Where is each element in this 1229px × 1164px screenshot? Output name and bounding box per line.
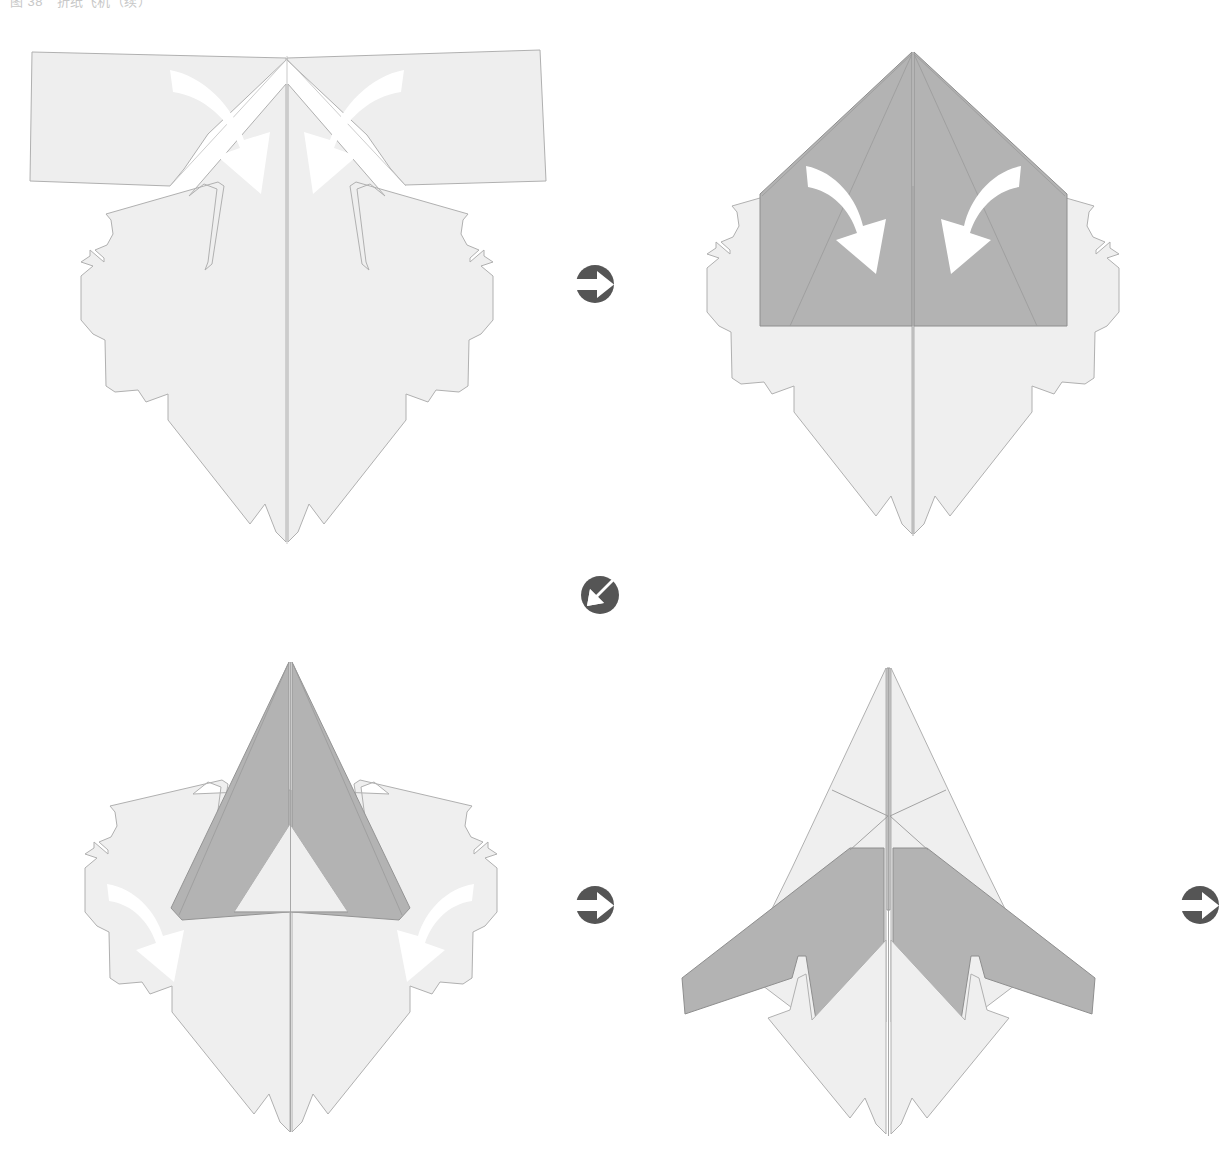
arrow-right-circle-icon[interactable] (573, 262, 617, 306)
connector-next-step-arrow-right-edge[interactable] (1178, 883, 1222, 927)
panel-step-1-figure (18, 34, 563, 554)
panel-step-3: Flaps folded up into narrow gray spire (18, 640, 563, 1140)
arrow-right-circle-icon[interactable] (1178, 883, 1222, 927)
connector-next-row-arrow[interactable] (578, 573, 622, 617)
arrow-right-circle-icon[interactable] (573, 883, 617, 927)
panel-step-4: Finished swept-wing paper airplane (660, 640, 1160, 1140)
figure-sheet: 图 38 折纸飞机（续） Flat sheet with upper corne… (0, 0, 1229, 1164)
panel-step-3-figure (18, 640, 563, 1140)
connector-next-step-arrow-right-bottom[interactable] (573, 883, 617, 927)
panel-step-1: Flat sheet with upper corners to be fold… (18, 34, 563, 554)
arrow-down-left-circle-icon[interactable] (578, 573, 622, 617)
panel-step-2: Upper corners folded to center forming g… (640, 26, 1185, 546)
panel-step-2-figure (640, 26, 1185, 546)
connector-next-step-arrow-right-top[interactable] (573, 262, 617, 306)
panel-step-4-figure (660, 640, 1160, 1140)
figure-caption: 图 38 折纸飞机（续） (10, 0, 151, 10)
